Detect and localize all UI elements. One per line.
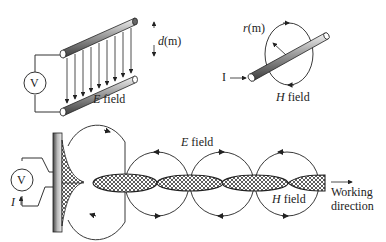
direction-label-line2: direction	[331, 199, 374, 213]
wave-h-field-label: H field	[271, 192, 306, 206]
voltage-source-label: V	[30, 76, 39, 90]
antenna-plate	[53, 133, 62, 232]
radius-arrow	[273, 43, 286, 55]
e-field-panel: V d(m) E field	[24, 18, 181, 116]
direction-label-line1: Working	[331, 185, 373, 199]
current-label: I	[222, 70, 226, 84]
h-field-lobes	[93, 174, 325, 192]
wave-panel: V I E field H field	[10, 125, 374, 240]
voltage-source-label-2: V	[17, 173, 26, 187]
h-field-label: H field	[275, 90, 310, 104]
radius-label: r(m)	[243, 21, 265, 35]
e-field-label: E field	[92, 92, 125, 106]
source-current-label: I	[10, 195, 16, 209]
current-wire	[250, 33, 328, 81]
wave-e-field-label: E field	[180, 135, 213, 149]
h-field-panel: r(m) I H field	[222, 21, 330, 104]
distance-label: d(m)	[158, 34, 181, 48]
em-field-diagram: V d(m) E field	[0, 0, 386, 242]
